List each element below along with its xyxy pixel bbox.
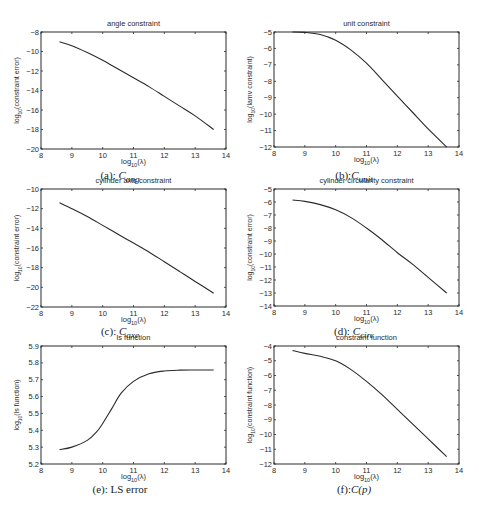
x-tick-label: 13 [424, 466, 432, 475]
subplot-f: constraint function891011121314−12−11−10… [0, 0, 240, 158]
y-tick-label: −11 [260, 445, 272, 454]
y-tick-label: −7 [263, 386, 272, 395]
caption-f: (f):C(p) [234, 483, 474, 495]
y-tick-label: −6 [263, 371, 272, 380]
y-tick-label: −12 [259, 460, 272, 469]
y-axis-label: log10(constraint function) [246, 367, 256, 443]
y-tick-label: −8 [263, 401, 272, 410]
axes-frame [274, 346, 459, 464]
x-tick-label: 9 [303, 466, 307, 475]
x-tick-label: 8 [272, 466, 276, 475]
x-tick-label: 12 [393, 466, 401, 475]
x-tick-label: 10 [331, 466, 339, 475]
chart-svg: constraint function891011121314−12−11−10… [0, 0, 479, 490]
data-line [293, 350, 447, 456]
y-tick-label: −4 [263, 342, 272, 351]
x-tick-label: 14 [455, 466, 463, 475]
chart-title: constraint function [336, 333, 397, 342]
y-tick-label: −9 [263, 415, 272, 424]
y-tick-label: −5 [263, 356, 272, 365]
y-tick-label: −10 [259, 430, 272, 439]
